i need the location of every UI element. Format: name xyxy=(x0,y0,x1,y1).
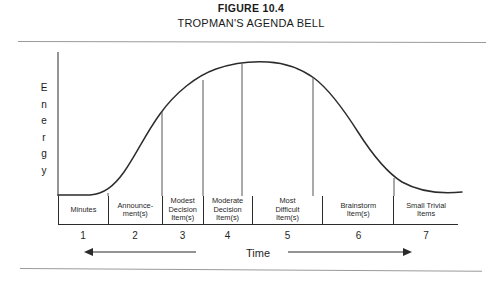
category-label-line: Item(s) xyxy=(275,214,299,222)
bottom-divider-rule xyxy=(20,268,482,272)
segment-number-1: 1 xyxy=(58,227,108,243)
category-cell-1: Minutes xyxy=(59,196,109,224)
segment-number-2: 2 xyxy=(108,227,162,243)
category-cell-6: Brainstorm Item(s) xyxy=(323,196,394,224)
figure-container: FIGURE 10.4 TROPMAN'S AGENDA BELL E n e … xyxy=(0,0,502,285)
top-divider-rule xyxy=(18,41,486,43)
y-axis-letter: e xyxy=(36,113,52,130)
segment-number-3: 3 xyxy=(162,227,203,243)
category-cell-2: Announce- ment(s) xyxy=(109,196,163,224)
figure-number: FIGURE 10.4 xyxy=(0,2,502,15)
category-label-line: Item(s) xyxy=(212,214,243,222)
bell-curve xyxy=(58,62,462,195)
y-axis-letter: r xyxy=(36,130,52,147)
category-label-line: ment(s) xyxy=(117,210,153,218)
category-cell-3: Modest Decision Item(s) xyxy=(163,196,204,224)
category-row: Minutes Announce- ment(s) Modest Decisio… xyxy=(58,196,458,225)
segment-number-5: 5 xyxy=(252,227,323,243)
y-axis-letter: n xyxy=(36,97,52,114)
category-label-line: Item(s) xyxy=(169,214,197,222)
y-axis-letter: g xyxy=(36,146,52,163)
category-cell-7: Small Trivial Items xyxy=(394,196,458,224)
figure-title-block: FIGURE 10.4 TROPMAN'S AGENDA BELL xyxy=(0,2,502,30)
x-axis-block: Time xyxy=(58,244,458,262)
segment-number-6: 6 xyxy=(323,227,394,243)
y-axis-letter: E xyxy=(36,80,52,97)
x-axis-label: Time xyxy=(58,244,458,262)
segment-number-row: 1 2 3 4 5 6 7 xyxy=(58,227,458,243)
category-cell-4: Moderate Decision Item(s) xyxy=(204,196,253,224)
y-axis-letter: y xyxy=(36,163,52,180)
category-label-line: Items xyxy=(406,210,446,218)
category-label-line: Item(s) xyxy=(340,210,376,218)
segment-number-4: 4 xyxy=(203,227,252,243)
category-label-line: Minutes xyxy=(70,206,96,214)
y-axis-label: E n e r g y xyxy=(36,80,52,179)
category-cell-5: Most Difficult Item(s) xyxy=(253,196,324,224)
figure-caption: TROPMAN'S AGENDA BELL xyxy=(0,16,502,30)
segment-number-7: 7 xyxy=(394,227,458,243)
